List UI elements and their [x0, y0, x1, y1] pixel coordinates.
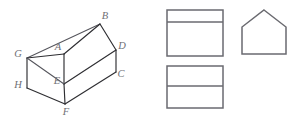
- vertex-label-a: A: [54, 41, 62, 52]
- vertex-label-b: B: [102, 10, 109, 21]
- solid-edge-AB: [64, 24, 100, 54]
- side-view-pentagon-outline: [242, 10, 286, 54]
- top-view-outline: [167, 66, 223, 108]
- solid-edge-FH: [27, 88, 65, 104]
- solid-edge-group: [27, 24, 116, 104]
- vertex-label-g: G: [14, 48, 22, 59]
- front-view-outline: [167, 10, 223, 56]
- figure-canvas: ABCDEFGH: [0, 0, 299, 125]
- solid-edge-BD: [100, 24, 116, 50]
- vertex-label-f: F: [62, 106, 70, 117]
- vertex-label-e: E: [53, 75, 61, 86]
- solid-edge-FC: [65, 72, 116, 104]
- vertex-label-c: C: [117, 68, 125, 79]
- vertex-label-h: H: [13, 79, 23, 90]
- solid-edge-ED: [64, 50, 116, 84]
- solid-edge-GA: [27, 54, 64, 58]
- figure-root: ABCDEFGH: [0, 0, 299, 125]
- vertex-label-d: D: [117, 40, 126, 51]
- solid-edge-GB: [27, 24, 100, 58]
- solid-edge-EF: [64, 84, 65, 104]
- orthographic-views-group: [167, 10, 286, 108]
